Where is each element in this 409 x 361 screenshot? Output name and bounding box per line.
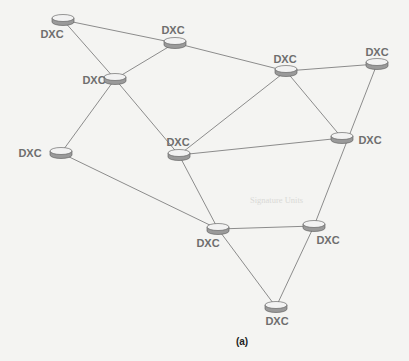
link-n9-n10 (218, 226, 314, 229)
dxc-node-icon (366, 59, 388, 70)
node-label-n9: DXC (196, 237, 219, 249)
link-n2-n3 (115, 43, 175, 79)
dxc-node-icon (331, 133, 353, 144)
node-label-n8: DXC (358, 134, 381, 146)
node-label-n11: DXC (265, 315, 288, 327)
dxc-node-icon (207, 224, 229, 235)
dxc-node-icon (50, 148, 72, 159)
link-n4-n5 (286, 64, 377, 71)
dxc-node-icon (164, 38, 186, 49)
link-n10-n11 (276, 226, 314, 307)
dxc-node-icon (303, 221, 325, 232)
node-label-n6: DXC (18, 147, 41, 159)
link-n6-n9 (61, 153, 218, 229)
link-n4-n8 (286, 71, 342, 138)
link-n9-n11 (218, 229, 276, 307)
figure-caption: (a) (236, 336, 248, 347)
node-label-n4: DXC (273, 53, 296, 65)
dxc-node-icon (52, 15, 74, 26)
dxc-node-icon (168, 150, 190, 161)
link-n3-n6 (61, 79, 115, 153)
link-n7-n9 (179, 155, 218, 229)
dxc-node-icon (265, 302, 287, 313)
node-label-n7: DXC (166, 136, 189, 148)
dxc-node-icon (275, 66, 297, 77)
node-label-n2: DXC (161, 24, 184, 36)
node-label-n10: DXC (316, 234, 339, 246)
link-n2-n4 (175, 43, 286, 71)
network-diagram: Signature Units DXCDXCDXCDXCDXCDXCDXCDXC… (0, 0, 409, 361)
dxc-node-icon (104, 74, 126, 85)
network-graph (0, 0, 409, 361)
link-n4-n7 (179, 71, 286, 155)
node-label-n3: DXC (82, 74, 105, 86)
link-n7-n8 (179, 138, 342, 155)
node-label-n1: DXC (40, 28, 63, 40)
node-label-n5: DXC (365, 46, 388, 58)
